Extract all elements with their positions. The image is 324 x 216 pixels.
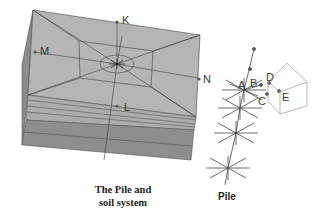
label-m: M (40, 45, 49, 57)
caption-soil-line2: soil system (78, 196, 168, 209)
caption-soil-system: The Pile and soil system (78, 183, 168, 209)
label-e: E (282, 91, 289, 103)
soil-block (22, 10, 201, 160)
label-a: A (238, 79, 246, 91)
caption-pile: Pile (218, 191, 236, 202)
label-n: N (203, 73, 211, 85)
caption-soil-line1: The Pile and (78, 183, 168, 196)
label-k: K (122, 14, 130, 26)
label-b: B (250, 77, 257, 89)
label-l: L (124, 101, 130, 113)
label-d: D (266, 71, 274, 83)
label-c: C (258, 95, 266, 107)
pile-model (206, 48, 281, 186)
